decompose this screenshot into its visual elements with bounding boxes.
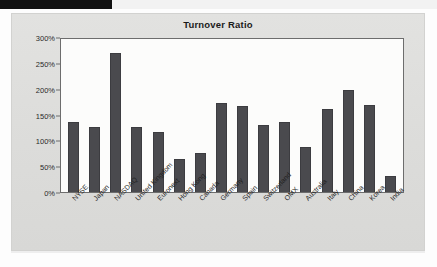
- bar-slot: [190, 39, 211, 192]
- y-axis-tick-label: 300%: [36, 34, 55, 43]
- x-label-slot: Germany: [211, 195, 232, 251]
- x-axis-labels: NYSEJapanNASDAQUnited KingdomEuronextHon…: [60, 195, 404, 251]
- bar[interactable]: [258, 125, 269, 192]
- x-label-slot: United Kingdom: [126, 195, 147, 251]
- bar[interactable]: [89, 127, 100, 192]
- bar[interactable]: [343, 90, 354, 192]
- x-label-slot: Spain: [232, 195, 253, 251]
- bar-slot: [63, 39, 84, 192]
- x-label-slot: Canada: [190, 195, 211, 251]
- bar-slot: [380, 39, 401, 192]
- bar[interactable]: [300, 147, 311, 192]
- bar-slot: [126, 39, 147, 192]
- bar-slot: [359, 39, 380, 192]
- y-axis-tick-label: 250%: [36, 59, 55, 68]
- plot-area: [60, 38, 404, 193]
- top-banner-filler: [112, 0, 437, 9]
- x-label-slot: NASDAQ: [105, 195, 126, 251]
- y-axis-tick-label: 50%: [40, 163, 55, 172]
- bar-slot: [253, 39, 274, 192]
- chart-title: Turnover Ratio: [12, 19, 424, 30]
- x-label-slot: Japan: [83, 195, 104, 251]
- bar-slot: [211, 39, 232, 192]
- page-edge: [11, 251, 425, 253]
- y-axis: 300%250%200%150%100%50%0%: [12, 38, 60, 194]
- x-label-slot: Australia: [296, 195, 317, 251]
- y-axis-tick-label: 200%: [36, 85, 55, 94]
- x-label-slot: Italy: [317, 195, 338, 251]
- bar[interactable]: [216, 103, 227, 192]
- bar[interactable]: [68, 122, 79, 192]
- x-label-slot: Euronext: [147, 195, 168, 251]
- y-axis-tick-label: 100%: [36, 137, 55, 146]
- bar-series: [61, 39, 403, 192]
- y-axis-tick-label: 0%: [44, 189, 55, 198]
- bar-slot: [338, 39, 359, 192]
- bar-slot: [274, 39, 295, 192]
- bar-slot: [295, 39, 316, 192]
- y-axis-tick-label: 150%: [36, 111, 55, 120]
- chart-figure: Turnover Ratio 300%250%200%150%100%50%0%…: [11, 13, 425, 251]
- bar-slot: [169, 39, 190, 192]
- x-label-slot: NYSE: [62, 195, 83, 251]
- bar-slot: [84, 39, 105, 192]
- x-label-slot: Switzerland: [253, 195, 274, 251]
- bar-slot: [232, 39, 253, 192]
- bar[interactable]: [364, 105, 375, 192]
- x-label-slot: Korea: [360, 195, 381, 251]
- x-label-slot: OMX: [275, 195, 296, 251]
- x-label-slot: India: [381, 195, 402, 251]
- bar[interactable]: [110, 53, 121, 193]
- bar-slot: [105, 39, 126, 192]
- top-black-banner: [0, 0, 112, 9]
- page-root: Turnover Ratio 300%250%200%150%100%50%0%…: [0, 0, 437, 267]
- x-label-slot: China: [338, 195, 359, 251]
- bar-slot: [317, 39, 338, 192]
- x-label-slot: Hong Kong: [168, 195, 189, 251]
